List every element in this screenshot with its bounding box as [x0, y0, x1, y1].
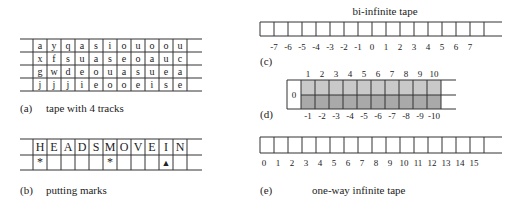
cell-index: 6: [454, 42, 459, 52]
negative-index: -7: [388, 111, 396, 121]
asterisk-mark-icon: *: [107, 155, 113, 169]
track-symbol: i: [81, 79, 84, 90]
track-symbol: s: [94, 40, 98, 51]
track-symbol: c: [178, 53, 183, 64]
track-symbol: a: [94, 53, 99, 64]
negative-index: -5: [360, 111, 368, 121]
track-symbol: a: [150, 53, 155, 64]
panel-d-folded-tape: 012345678910-1-2-3-4-5-6-7-8-9-10: [287, 69, 456, 121]
cell-index: 12: [428, 158, 437, 168]
asterisk-mark-icon: *: [37, 155, 43, 169]
track-symbol: s: [164, 79, 168, 90]
track-symbol: s: [136, 66, 140, 77]
cell-index: 14: [456, 158, 466, 168]
tape-letter: N: [176, 140, 185, 154]
track-symbol: e: [122, 53, 127, 64]
cell-index: 10: [400, 158, 410, 168]
track-symbol: y: [52, 40, 57, 51]
tape-letter: I: [164, 140, 168, 154]
track-symbol: d: [66, 66, 71, 77]
cell-index: -7: [270, 42, 278, 52]
track-symbol: s: [108, 53, 112, 64]
cell-index: 0: [262, 158, 267, 168]
track-symbol: i: [109, 40, 112, 51]
panel-c-label: (c): [260, 55, 273, 68]
positive-index: 10: [430, 69, 440, 79]
track-symbol: e: [80, 66, 85, 77]
tape-letter: S: [93, 140, 100, 154]
cell-index: -1: [354, 42, 362, 52]
tape-letter: V: [134, 140, 143, 154]
track-symbol: f: [52, 53, 56, 64]
panel-e-one-way-tape: 0123456789101112131415: [260, 137, 502, 168]
cell-index: 2: [290, 158, 295, 168]
positive-index: 4: [348, 69, 353, 79]
track-symbol: o: [122, 40, 127, 51]
track-symbol: u: [178, 40, 183, 51]
track-symbol: a: [178, 66, 183, 77]
cell-index: 2: [398, 42, 403, 52]
cell-index: 5: [440, 42, 445, 52]
tape-letter: O: [120, 140, 129, 154]
positive-index: 8: [404, 69, 409, 79]
cell-index: -5: [298, 42, 306, 52]
track-symbol: u: [108, 66, 113, 77]
track-symbol: j: [52, 79, 56, 90]
track-symbol: e: [94, 79, 99, 90]
negative-index: -1: [304, 111, 312, 121]
tape-letter: M: [105, 140, 116, 154]
tape-letter: D: [78, 140, 87, 154]
cell-index: 3: [412, 42, 417, 52]
tape-letter: E: [50, 140, 57, 154]
cell-index: 7: [468, 42, 473, 52]
track-symbol: u: [136, 40, 141, 51]
tape-letter: E: [148, 140, 155, 154]
track-symbol: o: [94, 66, 99, 77]
cell-index: 5: [332, 158, 337, 168]
track-symbol: o: [108, 79, 113, 90]
track-symbol: i: [151, 79, 154, 90]
track-symbol: a: [122, 66, 127, 77]
panel-b-marked-tape: HEADSMOVEIN**▲: [20, 139, 202, 170]
track-symbol: e: [178, 79, 183, 90]
track-symbol: u: [164, 53, 169, 64]
cell-index: 6: [346, 158, 351, 168]
track-symbol: o: [122, 79, 127, 90]
cell-index: 4: [318, 158, 323, 168]
positive-index: 7: [390, 69, 395, 79]
track-symbol: q: [66, 40, 71, 51]
tape-letter: A: [64, 140, 73, 154]
turing-tape-diagram: ayqasiouoouxfsuaseoaucgwdeouasueajjjieoo…: [0, 0, 512, 210]
cell-index: 9: [388, 158, 393, 168]
panel-a-label: (a): [20, 102, 33, 115]
triangle-mark-icon: ▲: [162, 158, 171, 168]
negative-index: -8: [402, 111, 410, 121]
track-symbol: o: [136, 53, 141, 64]
cell-index: 3: [304, 158, 309, 168]
panel-e-label: (e): [260, 184, 273, 197]
track-symbol: w: [50, 66, 58, 77]
track-symbol: s: [66, 53, 70, 64]
cell-index: -6: [284, 42, 292, 52]
cell-index: 1: [276, 158, 281, 168]
track-symbol: a: [80, 40, 85, 51]
track-symbol: j: [66, 79, 70, 90]
cell-index: 1: [384, 42, 389, 52]
panel-a-four-track-tape: ayqasiouoouxfsuaseoaucgwdeouasueajjjieoo…: [20, 39, 202, 91]
panel-e-caption: one-way infinite tape: [312, 184, 406, 196]
track-symbol: o: [164, 40, 169, 51]
track-symbol: j: [38, 79, 42, 90]
cell-index: 4: [426, 42, 431, 52]
track-symbol: g: [38, 66, 43, 77]
track-symbol: u: [80, 53, 85, 64]
panel-b-caption: putting marks: [46, 184, 107, 196]
positive-index: 6: [376, 69, 381, 79]
negative-index: -9: [416, 111, 424, 121]
cell-index: 0: [370, 42, 375, 52]
panel-b-label: (b): [20, 184, 33, 197]
positive-index: 2: [320, 69, 325, 79]
tape-letter: H: [36, 140, 45, 154]
track-symbol: a: [38, 40, 43, 51]
positive-index: 1: [306, 69, 311, 79]
panel-c-bi-infinite-tape: -7-6-5-4-3-2-101234567: [260, 22, 502, 52]
